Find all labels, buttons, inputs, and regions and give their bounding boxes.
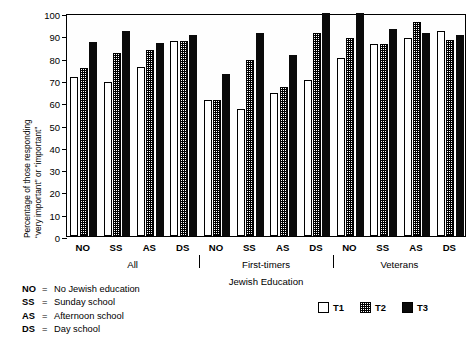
bar-all-ds-t2	[180, 41, 188, 236]
x-group-separator	[199, 255, 200, 268]
key-row: AS=Afternoon school	[22, 310, 140, 323]
x-tick-label-all-no: NO	[75, 242, 89, 253]
chart-figure: Percentage of those responding “very imp…	[0, 0, 476, 343]
key-abbr: DS	[22, 323, 42, 336]
y-tick-mark	[62, 238, 67, 239]
key-equals: =	[42, 323, 54, 336]
bar-all-as-t2	[146, 50, 154, 236]
bar-veterans-no-t2	[346, 38, 354, 236]
x-tick-label-veterans-as: AS	[409, 242, 422, 253]
legend-label-t2: T2	[375, 302, 386, 313]
key-text: Day school	[54, 324, 100, 334]
bar-veterans-as-t2	[413, 22, 421, 236]
x-group-separator	[333, 255, 334, 268]
y-tick-label: 70	[49, 76, 60, 87]
x-tick-label-first-timers-as: AS	[276, 242, 289, 253]
x-tick-label-veterans-no: NO	[342, 242, 356, 253]
bar-first-timers-as-t3	[289, 55, 297, 236]
bar-first-timers-no-t3	[222, 74, 230, 236]
bar-all-ds-t1	[170, 41, 178, 236]
bar-all-ss-t3	[122, 31, 130, 236]
plot-area: 0102030405060708090100	[66, 14, 466, 237]
x-tick-label-first-timers-ss: SS	[243, 242, 256, 253]
x-tick-label-first-timers-ds: DS	[309, 242, 322, 253]
abbreviation-key: NO=No Jewish education SS=Sunday school …	[22, 283, 140, 336]
x-group-label-veterans: Veterans	[380, 259, 418, 270]
legend-item-t1: T1	[318, 302, 344, 313]
y-axis-title-line2: “very important” or “important”	[33, 127, 43, 238]
bar-first-timers-as-t1	[270, 93, 278, 236]
x-group-label-all: All	[127, 259, 138, 270]
key-row: SS=Sunday school	[22, 296, 140, 309]
legend-swatch-t3	[402, 302, 413, 313]
legend-item-t2: T2	[360, 302, 386, 313]
y-tick-label: 60	[49, 99, 60, 110]
bar-veterans-no-t3	[356, 13, 364, 236]
bar-first-timers-ds-t2	[313, 33, 321, 236]
x-tick-label-veterans-ds: DS	[443, 242, 456, 253]
key-equals: =	[42, 310, 54, 323]
key-row: DS=Day school	[22, 323, 140, 336]
key-abbr: NO	[22, 283, 42, 296]
y-tick-label: 30	[49, 166, 60, 177]
x-group-label-first-timers: First-timers	[242, 259, 290, 270]
y-tick-label: 100	[44, 10, 60, 21]
x-tick-label-all-ds: DS	[176, 242, 189, 253]
bar-all-no-t1	[70, 77, 78, 236]
bar-veterans-as-t1	[404, 38, 412, 236]
y-tick-label: 80	[49, 54, 60, 65]
key-text: Afternoon school	[54, 311, 124, 321]
x-tick-label-first-timers-no: NO	[209, 242, 223, 253]
x-tick-label-all-ss: SS	[110, 242, 123, 253]
x-tick-label-veterans-ss: SS	[376, 242, 389, 253]
y-axis-title-line1: Percentage of those responding	[22, 119, 32, 238]
bar-first-timers-no-t2	[213, 100, 221, 236]
legend-swatch-t1	[318, 302, 329, 313]
bar-veterans-ds-t1	[437, 31, 445, 236]
y-tick-label: 0	[55, 233, 60, 244]
bar-series-container	[67, 15, 465, 236]
y-tick-label: 20	[49, 188, 60, 199]
bar-veterans-ds-t3	[456, 35, 464, 236]
key-text: Sunday school	[54, 297, 115, 307]
bar-veterans-ss-t3	[389, 29, 397, 236]
y-tick-label: 50	[49, 121, 60, 132]
key-row: NO=No Jewish education	[22, 283, 140, 296]
bar-first-timers-ss-t1	[237, 109, 245, 236]
bar-first-timers-no-t1	[204, 100, 212, 236]
bar-veterans-ss-t2	[380, 44, 388, 236]
legend-label-t1: T1	[333, 302, 344, 313]
bar-first-timers-ds-t3	[322, 13, 330, 236]
y-axis-title: Percentage of those responding “very imp…	[4, 0, 44, 250]
key-equals: =	[42, 283, 54, 296]
bar-first-timers-ss-t3	[256, 33, 264, 236]
bar-all-as-t1	[137, 67, 145, 236]
legend-swatch-t2	[360, 302, 371, 313]
key-text: No Jewish education	[54, 284, 140, 294]
key-abbr: AS	[22, 310, 42, 323]
bar-all-as-t3	[156, 43, 164, 236]
bar-all-no-t2	[80, 68, 88, 236]
y-tick-label: 90	[49, 32, 60, 43]
bar-all-ss-t1	[104, 82, 112, 236]
x-tick-label-all-as: AS	[143, 242, 156, 253]
bar-veterans-no-t1	[337, 58, 345, 236]
bar-all-ss-t2	[113, 53, 121, 236]
chart-legend: T1 T2 T3	[318, 302, 440, 313]
bar-first-timers-as-t2	[280, 87, 288, 236]
bar-all-ds-t3	[189, 35, 197, 236]
bar-veterans-ds-t2	[446, 40, 454, 236]
bar-veterans-ss-t1	[370, 44, 378, 236]
bar-veterans-as-t3	[422, 33, 430, 236]
bar-first-timers-ds-t1	[304, 80, 312, 236]
legend-item-t3: T3	[402, 302, 428, 313]
key-abbr: SS	[22, 296, 42, 309]
legend-label-t3: T3	[417, 302, 428, 313]
bar-first-timers-ss-t2	[246, 60, 254, 236]
y-tick-label: 40	[49, 143, 60, 154]
x-axis-title: Jewish Education	[229, 276, 304, 287]
bar-all-no-t3	[89, 42, 97, 236]
y-tick-label: 10	[49, 210, 60, 221]
key-equals: =	[42, 296, 54, 309]
